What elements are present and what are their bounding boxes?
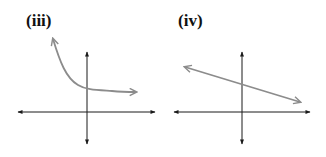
panel-iv: [174, 52, 310, 144]
diagram-canvas: [0, 0, 326, 157]
panel-iii: [18, 39, 155, 144]
panel-iii-decay-curve: [53, 39, 136, 92]
